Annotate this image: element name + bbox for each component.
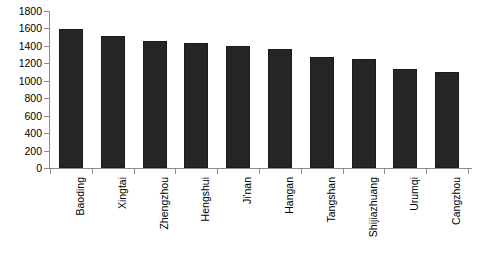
x-axis-category-label: Zhengzhou: [159, 177, 170, 230]
bar: [226, 46, 250, 168]
x-axis-tick: [217, 169, 218, 174]
bar: [101, 36, 125, 168]
x-axis-tick: [92, 169, 93, 174]
x-axis-line: [44, 168, 472, 169]
y-axis-tick-label: 1800: [0, 6, 42, 17]
x-axis-category-label: Baoding: [75, 177, 86, 216]
bar: [393, 69, 417, 168]
x-axis-category-label: Tangshan: [326, 177, 337, 223]
bar: [143, 41, 167, 168]
bar: [435, 72, 459, 168]
y-axis-tick-label: 200: [0, 145, 42, 156]
y-axis-tick-label: 1600: [0, 23, 42, 34]
y-axis-tick-label: 600: [0, 110, 42, 121]
y-axis-tick-label: 1200: [0, 58, 42, 69]
x-axis-tick: [301, 169, 302, 174]
x-axis-tick: [50, 169, 51, 174]
x-axis-category-label: Shijiazhuang: [368, 177, 379, 237]
y-axis-tick-label: 400: [0, 128, 42, 139]
x-axis-category-label: Ji'nan: [242, 177, 253, 204]
x-axis-category-label: Xingtai: [117, 177, 128, 209]
y-axis-tick-label: 1000: [0, 76, 42, 87]
x-axis-tick: [343, 169, 344, 174]
y-axis-tick-label: 0: [0, 163, 42, 174]
bars-layer: [50, 11, 468, 168]
bar: [352, 59, 376, 168]
y-axis-tick-label: 800: [0, 93, 42, 104]
x-axis-category-label: Hengshui: [200, 177, 211, 221]
x-axis-tick: [134, 169, 135, 174]
x-axis-tick: [384, 169, 385, 174]
x-axis-category-label: Urumqi: [409, 177, 420, 211]
x-axis-category-label: Hangan: [284, 177, 295, 214]
x-axis-tick: [175, 169, 176, 174]
x-axis-tick: [468, 169, 469, 174]
y-axis-tick-label: 1400: [0, 41, 42, 52]
bar: [184, 43, 208, 168]
bar: [59, 29, 83, 168]
x-axis-tick: [259, 169, 260, 174]
x-axis-tick: [426, 169, 427, 174]
x-axis-category-label: Cangzhou: [451, 177, 462, 225]
bar: [310, 57, 334, 168]
bar: [268, 49, 292, 168]
bar-chart: 020040060080010001200140016001800 Baodin…: [0, 0, 481, 255]
